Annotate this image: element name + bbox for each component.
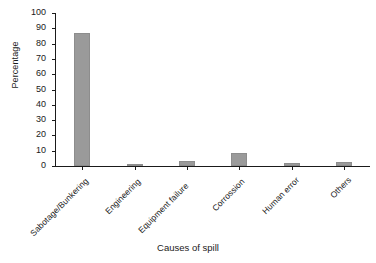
y-tick-label: 50 <box>36 84 46 94</box>
bar <box>284 163 300 166</box>
x-tick-label: Human error <box>260 175 301 216</box>
bar <box>336 162 352 166</box>
y-tick-mark <box>52 120 56 121</box>
x-tick-mark <box>82 166 83 170</box>
y-tick-mark <box>52 151 56 152</box>
y-tick-label: 30 <box>36 114 46 124</box>
y-tick-mark <box>52 44 56 45</box>
y-tick-mark <box>52 59 56 60</box>
bar <box>127 164 143 166</box>
y-tick-mark <box>52 135 56 136</box>
y-tick-mark <box>52 74 56 75</box>
y-tick-label: 40 <box>36 99 46 109</box>
bar <box>74 33 90 166</box>
x-tick-mark <box>344 166 345 170</box>
bar-chart: Percentage 0102030405060708090100 Sabota… <box>0 0 376 263</box>
y-axis-title: Percentage <box>10 15 20 115</box>
y-tick-mark <box>52 166 56 167</box>
y-tick-label: 10 <box>36 145 46 155</box>
bar <box>179 161 195 166</box>
x-axis-title: Causes of spill <box>0 242 376 253</box>
y-tick-mark <box>52 13 56 14</box>
y-tick-label: 80 <box>36 38 46 48</box>
y-tick-label: 90 <box>36 22 46 32</box>
x-tick-label: Others <box>328 175 353 200</box>
bar <box>231 153 247 166</box>
y-tick-label: 20 <box>36 129 46 139</box>
x-tick-label: Engineering <box>103 177 143 217</box>
x-tick-mark <box>239 166 240 170</box>
x-tick-mark <box>292 166 293 170</box>
y-tick-mark <box>52 105 56 106</box>
x-tick-mark <box>135 166 136 170</box>
plot-area: 0102030405060708090100 <box>56 13 370 166</box>
x-tick-mark <box>187 166 188 170</box>
x-tick-label: Sabotage/Bunkering <box>28 176 90 238</box>
x-axis-line <box>55 166 370 167</box>
y-tick-label: 100 <box>31 7 46 17</box>
y-tick-label: 70 <box>36 53 46 63</box>
y-tick-mark <box>52 90 56 91</box>
x-tick-label: Equipment failure <box>136 181 190 235</box>
y-tick-label: 60 <box>36 68 46 78</box>
y-tick-mark <box>52 28 56 29</box>
y-tick-label: 0 <box>41 160 46 170</box>
x-tick-label: Corrossion <box>210 176 246 212</box>
